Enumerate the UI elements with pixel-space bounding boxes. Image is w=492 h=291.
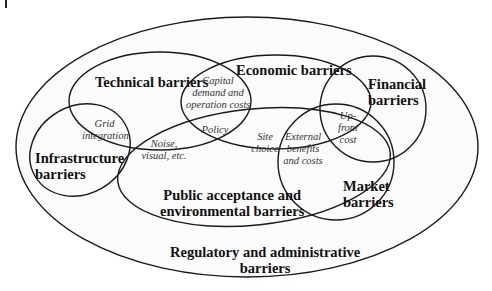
external-line3: and costs: [280, 155, 326, 167]
capital-costs-label: Capital demand and operation costs: [186, 75, 250, 111]
external-line2: benefits: [280, 143, 326, 155]
noise-line1: Noise,: [138, 138, 190, 150]
grid-line1: Grid: [82, 118, 127, 130]
public-acceptance-label: Public acceptance and environmental barr…: [160, 187, 304, 219]
policy-label: Policy: [200, 124, 230, 136]
external-benefits-label: External benefits and costs: [280, 131, 326, 167]
market-label-line2: barriers: [343, 194, 394, 210]
infrastructure-label-line1: Infrastructure: [35, 150, 124, 166]
capital-line2: demand and: [186, 87, 250, 99]
upfront-line1: Up-: [333, 110, 363, 122]
capital-line1: Capital: [186, 75, 250, 87]
site-choice-label: Site choice: [248, 131, 282, 155]
public-label-line2: environmental barriers: [160, 203, 304, 219]
financial-barriers-label: Financial barriers: [368, 76, 426, 108]
infrastructure-barriers-label: Infrastructure barriers: [35, 150, 124, 182]
upfront-cost-label: Up- front cost: [333, 110, 363, 146]
financial-label-line1: Financial: [368, 76, 426, 92]
infrastructure-label-line2: barriers: [35, 166, 124, 182]
noise-line2: visual, etc.: [138, 150, 190, 162]
market-barriers-label: Market barriers: [343, 178, 394, 210]
policy-line1: Policy: [200, 124, 230, 136]
external-line1: External: [280, 131, 326, 143]
site-line2: choice: [248, 143, 282, 155]
financial-label-line2: barriers: [368, 92, 426, 108]
regulatory-label-line1: Regulatory and administrative: [170, 244, 360, 260]
public-label-line1: Public acceptance and: [160, 187, 304, 203]
regulatory-label-line2: barriers: [170, 260, 360, 276]
grid-line2: integration: [82, 130, 127, 142]
upfront-line3: cost: [333, 134, 363, 146]
regulatory-barriers-label: Regulatory and administrative barriers: [170, 244, 360, 276]
noise-visual-label: Noise, visual, etc.: [138, 138, 190, 162]
market-label-line1: Market: [343, 178, 394, 194]
upfront-line2: front: [333, 122, 363, 134]
site-line1: Site: [248, 131, 282, 143]
economic-barriers-label: Economic barriers: [236, 62, 352, 78]
grid-integration-label: Grid integration: [82, 118, 127, 142]
capital-line3: operation costs: [186, 99, 250, 111]
